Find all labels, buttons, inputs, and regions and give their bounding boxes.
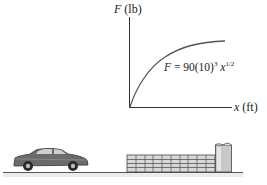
car-illustration [14, 149, 88, 172]
cylinder-post [216, 143, 232, 172]
equation-exponent-2: 1/2 [225, 60, 234, 68]
crash-barrier [127, 155, 215, 172]
force-curve [130, 41, 225, 107]
y-axis-unit: (lb) [124, 2, 141, 16]
x-axis-unit: (ft) [242, 100, 257, 114]
y-axis-label: F (lb) [114, 2, 142, 17]
figure-canvas [0, 0, 267, 185]
x-axis-variable: x [234, 100, 239, 114]
equation-coefficient: = 90(10) [171, 61, 214, 73]
y-axis-variable: F [114, 2, 121, 16]
curve-equation: F = 90(10)3 x1/2 [164, 60, 234, 73]
equation-lhs: F [164, 61, 171, 73]
x-axis-label: x (ft) [234, 100, 258, 115]
